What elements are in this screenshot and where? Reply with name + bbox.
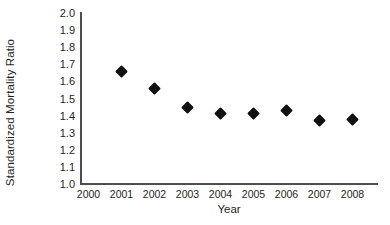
y-tick-label: 1.2 — [49, 145, 75, 155]
data-point-marker — [214, 108, 227, 121]
chart-container: Standardized Mortality Ratio 2.01.91.81.… — [0, 0, 390, 225]
y-tick-label: 1.7 — [49, 59, 75, 69]
data-point-marker — [247, 108, 260, 121]
y-tick-label: 1.9 — [49, 25, 75, 35]
y-tick-label: 1.6 — [49, 76, 75, 86]
data-point-marker — [313, 114, 326, 127]
y-tick-label: 1.3 — [49, 128, 75, 138]
y-tick-label: 1.1 — [49, 162, 75, 172]
x-tick-label: 2008 — [333, 188, 373, 200]
x-axis-title: Year — [80, 203, 378, 215]
data-point-marker — [148, 82, 161, 95]
data-point-marker — [181, 101, 194, 114]
y-tick-label: 2.0 — [49, 8, 75, 18]
data-point-marker — [346, 113, 359, 126]
data-point-marker — [115, 65, 128, 78]
y-tick-label: 1.5 — [49, 94, 75, 104]
plot-area — [81, 13, 379, 184]
data-point-marker — [280, 104, 293, 117]
y-tick-label: 1.4 — [49, 111, 75, 121]
y-tick-label: 1.8 — [49, 42, 75, 52]
y-axis-title: Standardized Mortality Ratio — [0, 0, 20, 225]
